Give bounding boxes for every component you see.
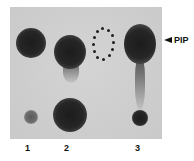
lane-3-upper-spot — [124, 24, 156, 64]
arrowhead-left-icon — [164, 37, 172, 43]
lane-2-lower-spot — [53, 98, 87, 132]
dotted-outline-marker — [92, 27, 116, 63]
tlc-plate — [10, 7, 162, 139]
lane-label-3: 3 — [135, 144, 140, 153]
pip-marker-label: PIP — [174, 36, 189, 45]
lane-2-upper-spot — [54, 35, 86, 69]
lane-label-1: 1 — [25, 144, 30, 153]
lane-1-lower-spot — [24, 110, 38, 124]
lane-label-2: 2 — [64, 144, 69, 153]
lane-3-lower-spot — [132, 110, 148, 126]
lane-1-upper-spot — [16, 28, 46, 58]
